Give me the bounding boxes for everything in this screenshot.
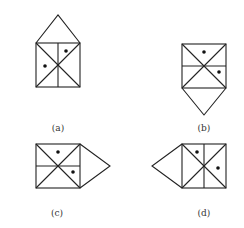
dot-marker <box>195 150 199 154</box>
dot-marker <box>64 49 68 53</box>
figure-c: (c) <box>36 144 110 218</box>
triangle-top <box>36 15 80 43</box>
dot-marker <box>202 50 206 54</box>
dot-marker <box>216 166 220 170</box>
figure-d: (d) <box>152 144 226 218</box>
triangle-right <box>80 144 110 188</box>
dot-marker <box>43 64 47 68</box>
figure-label-d: (d) <box>198 208 211 218</box>
figure-b: (b) <box>182 44 226 133</box>
figure-label-c: (c) <box>51 208 63 218</box>
dot-marker <box>56 150 60 154</box>
dot-marker <box>71 170 75 174</box>
dot-marker <box>217 70 221 74</box>
triangle-bottom <box>182 88 226 115</box>
triangle-left <box>152 144 182 188</box>
figure-label-a: (a) <box>52 123 64 133</box>
figure-canvas: (a)(b)(c)(d) <box>0 0 244 228</box>
figure-label-b: (b) <box>198 123 211 133</box>
figure-a: (a) <box>36 15 80 133</box>
